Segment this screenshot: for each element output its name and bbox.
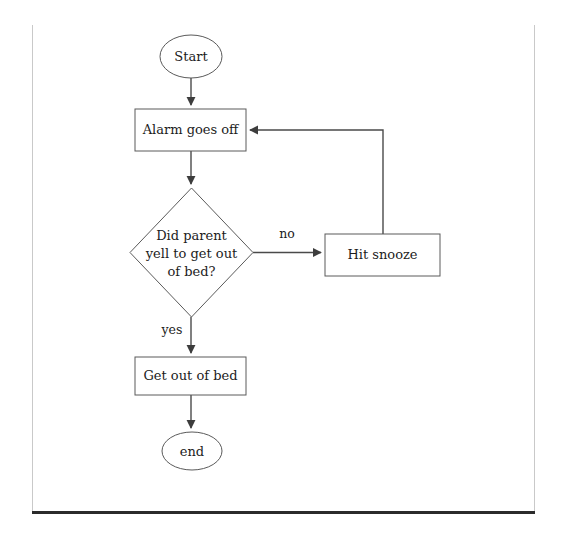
- start-label: Start: [174, 49, 208, 64]
- alarm-label: Alarm goes off: [142, 122, 240, 137]
- node-get-out-of-bed[interactable]: Get out of bed: [135, 357, 246, 395]
- snooze-label: Hit snooze: [347, 247, 417, 262]
- end-label: end: [180, 444, 204, 459]
- getout-label: Get out of bed: [143, 368, 237, 383]
- decision-label-line1: Did parent: [156, 228, 227, 243]
- node-alarm-goes-off[interactable]: Alarm goes off: [135, 109, 246, 151]
- decision-label-line3: of bed?: [167, 264, 215, 279]
- edge-label-no: no: [279, 226, 295, 241]
- flowchart-page: Start Alarm goes off Did parent yell to …: [0, 0, 565, 535]
- edge-label-yes: yes: [161, 322, 183, 337]
- flowchart-canvas: Start Alarm goes off Did parent yell to …: [0, 0, 565, 535]
- edge-snooze-to-alarm: [250, 130, 383, 234]
- node-hit-snooze[interactable]: Hit snooze: [325, 234, 440, 276]
- decision-label-line2: yell to get out: [145, 246, 238, 261]
- node-decision[interactable]: Did parent yell to get out of bed?: [130, 188, 253, 317]
- node-start[interactable]: Start: [160, 35, 222, 78]
- node-end[interactable]: end: [162, 432, 222, 470]
